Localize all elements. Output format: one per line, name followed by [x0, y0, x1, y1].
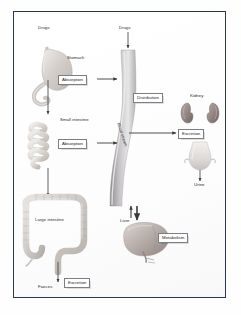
box-absorption-intestine[interactable]: Absorption	[58, 139, 87, 149]
label-large-intestine: Large intestine	[35, 218, 64, 222]
label-kidney: Kidney	[190, 94, 203, 98]
box-absorption-stomach[interactable]: Absorption	[58, 75, 87, 85]
label-small-intestine: Small intestine	[60, 118, 89, 122]
box-excretion-kidney[interactable]: Excretion	[178, 129, 204, 139]
box-distribution[interactable]: Distribution	[133, 93, 163, 103]
adme-diagram: Drugs Stomach Small intestine Large inte…	[0, 0, 241, 315]
label-drugs-iv: Drugs	[119, 26, 131, 30]
label-faeces: Faeces	[38, 285, 52, 289]
label-liver: Liver	[120, 219, 130, 223]
box-excretion-faeces[interactable]: Excretion	[64, 278, 90, 288]
box-metabolism[interactable]: Metabolism	[158, 233, 188, 243]
label-urine: Urine	[194, 183, 205, 187]
label-drugs-oral: Drugs	[38, 26, 50, 30]
diagram-artwork	[0, 0, 241, 315]
label-stomach: Stomach	[67, 56, 84, 60]
diagram-canvas: Drugs Stomach Small intestine Large inte…	[0, 0, 241, 315]
